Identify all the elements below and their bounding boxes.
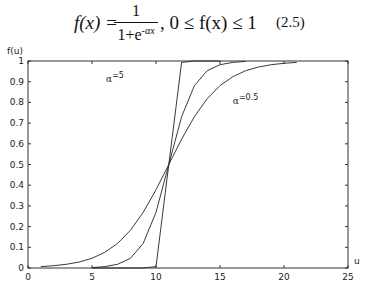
y-tick-label: 1 xyxy=(18,56,24,66)
axes xyxy=(28,61,348,268)
y-tick-label: 0.7 xyxy=(10,118,24,128)
ticks xyxy=(28,61,348,268)
y-tick-label: 0 xyxy=(18,263,24,273)
y-tick-label: 0.2 xyxy=(10,222,24,232)
annotation-0: α=5 xyxy=(106,71,124,84)
y-tick-label: 0.4 xyxy=(10,180,25,190)
series-line-0 xyxy=(92,61,220,268)
y-tick-label: 0.5 xyxy=(10,160,24,170)
y-axis-label: f(u) xyxy=(7,46,23,56)
y-tick-label: 0.3 xyxy=(10,201,24,211)
annotation-value: =0.5 xyxy=(239,93,258,102)
plot-frame xyxy=(28,61,348,268)
x-axis-label: u xyxy=(354,256,360,266)
y-tick-label: 0.8 xyxy=(10,97,25,107)
x-tick-label: 5 xyxy=(89,272,95,282)
y-tick-label: 0.9 xyxy=(10,77,25,87)
series-group xyxy=(41,61,297,268)
annotation-1: α=0.5 xyxy=(233,93,259,106)
y-tick-label: 0.6 xyxy=(10,139,25,149)
annotation-value: =5 xyxy=(112,71,124,80)
x-tick-label: 15 xyxy=(214,272,225,282)
labels: 051015202500.10.20.30.40.50.60.70.80.91f… xyxy=(7,46,360,282)
x-tick-label: 20 xyxy=(278,272,290,282)
sigmoid-chart: 051015202500.10.20.30.40.50.60.70.80.91f… xyxy=(0,0,367,291)
x-tick-label: 10 xyxy=(150,272,162,282)
y-tick-label: 0.1 xyxy=(10,242,24,252)
series-line-2 xyxy=(41,62,297,266)
x-tick-label: 0 xyxy=(25,272,31,282)
x-tick-label: 25 xyxy=(342,272,353,282)
